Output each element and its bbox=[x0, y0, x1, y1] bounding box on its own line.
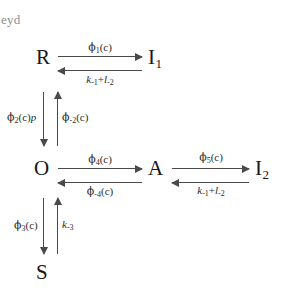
label-phi3: ϕ3(c) bbox=[14, 220, 38, 233]
node-I2: I2 bbox=[255, 158, 269, 181]
node-I1-subscript: 1 bbox=[156, 56, 163, 71]
label-phi-minus4-arg: (c) bbox=[101, 185, 113, 197]
node-R-label: R bbox=[36, 45, 50, 69]
label-k-minus3-subscript: -3 bbox=[67, 223, 74, 232]
label-phi1-symbol: ϕ bbox=[88, 41, 96, 54]
arrow-I2-to-A bbox=[172, 182, 249, 183]
arrow-R-to-I1 bbox=[58, 56, 142, 57]
label-phi1-arg: (c) bbox=[100, 41, 112, 53]
arrow-A-to-I2 bbox=[172, 168, 249, 169]
arrow-S-to-O bbox=[57, 198, 58, 254]
label-phi4-arg: (c) bbox=[100, 153, 112, 165]
label-k1l2-top-k-subscript: -1 bbox=[91, 78, 98, 87]
arrow-O-to-A bbox=[58, 168, 142, 169]
reaction-scheme-diagram: eyd R I1 O A I2 S ϕ1(c) k-1+l-2 ϕ4(c) ϕ-… bbox=[0, 0, 287, 299]
label-phi5-symbol: ϕ bbox=[199, 151, 207, 164]
node-S: S bbox=[36, 262, 48, 283]
node-A-label: A bbox=[148, 156, 163, 180]
node-A: A bbox=[148, 158, 163, 179]
arrow-O-to-R bbox=[57, 92, 58, 146]
arrow-O-to-S bbox=[43, 198, 44, 254]
label-phi3-arg: (c) bbox=[26, 219, 38, 231]
node-I2-label: I bbox=[255, 156, 262, 180]
label-phi2-symbol: ϕ bbox=[7, 111, 15, 124]
label-phi2-p: ϕ2(c)p bbox=[7, 112, 36, 125]
label-phi5: ϕ5(c) bbox=[199, 152, 223, 165]
label-phi2-arg: (c) bbox=[19, 111, 31, 123]
label-phi5-arg: (c) bbox=[211, 151, 223, 163]
label-phi-minus2: ϕ-2(c) bbox=[62, 112, 88, 125]
label-k1l2-right-l-subscript: -2 bbox=[218, 189, 225, 198]
node-I1-label: I bbox=[148, 45, 155, 69]
label-k1-plus-l2-top: k-1+l-2 bbox=[86, 74, 114, 87]
arrow-R-to-O bbox=[43, 92, 44, 146]
label-k1-plus-l2-right: k-1+l-2 bbox=[197, 185, 225, 198]
node-I1: I1 bbox=[148, 47, 162, 70]
node-O-label: O bbox=[34, 156, 49, 180]
label-phi-minus4: ϕ-4(c) bbox=[87, 186, 113, 199]
label-k1l2-right-k-subscript: -1 bbox=[202, 189, 209, 198]
label-phi4-symbol: ϕ bbox=[88, 153, 96, 166]
node-O: O bbox=[34, 158, 49, 179]
label-phi4: ϕ4(c) bbox=[88, 154, 112, 167]
node-S-label: S bbox=[36, 260, 48, 284]
arrow-A-to-O bbox=[58, 182, 142, 183]
label-phi3-symbol: ϕ bbox=[14, 219, 22, 232]
label-phi1: ϕ1(c) bbox=[88, 42, 112, 55]
label-phi-minus4-symbol: ϕ bbox=[87, 185, 95, 198]
label-k-minus3: k-3 bbox=[62, 219, 74, 232]
arrow-I1-to-R bbox=[58, 70, 142, 71]
label-phi-minus2-arg: (c) bbox=[76, 111, 88, 123]
node-R: R bbox=[36, 47, 50, 68]
label-k1l2-top-l-subscript: -2 bbox=[107, 78, 114, 87]
label-phi-minus2-symbol: ϕ bbox=[62, 111, 70, 124]
node-I2-subscript: 2 bbox=[263, 167, 270, 182]
corner-text: eyd bbox=[1, 12, 21, 28]
label-phi2-factor: p bbox=[31, 111, 37, 123]
